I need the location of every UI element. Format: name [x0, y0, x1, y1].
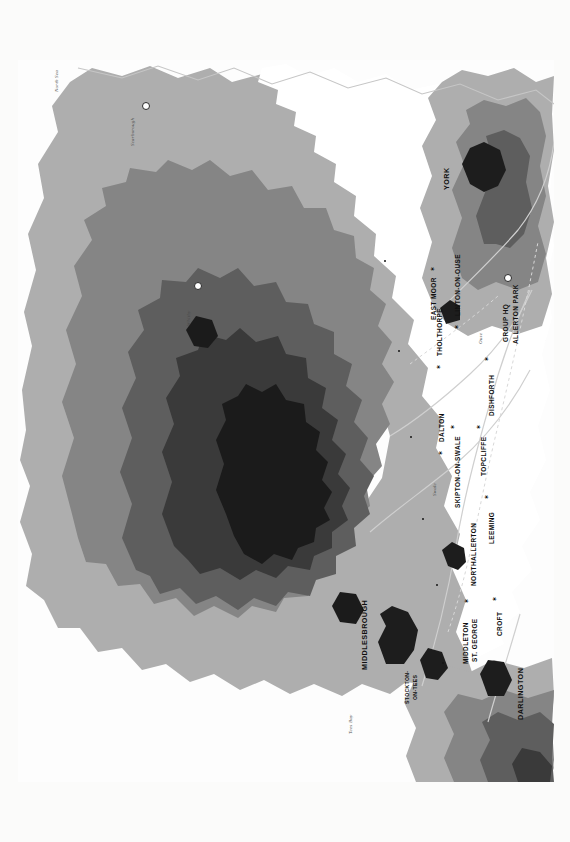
- label-whitby: Whitby: [186, 311, 191, 326]
- airfield-marker-croft[interactable]: ✶: [492, 596, 499, 602]
- label-darlington: DARLINGTON: [516, 668, 525, 720]
- airfield-marker-leeming[interactable]: ✶: [484, 494, 491, 500]
- label-stockton-line2: ON-TEES: [412, 675, 418, 700]
- label-croft: CROFT: [496, 612, 503, 636]
- map-terrain-svg: [18, 60, 554, 782]
- airfield-marker-tholthorpe[interactable]: ✶: [436, 364, 443, 370]
- label-scarborough: Scarborough: [130, 118, 135, 146]
- town-marker-scarborough[interactable]: [142, 102, 150, 110]
- label-allerton-park: ALLERTON PARK: [512, 284, 519, 344]
- label-dalton: DALTON: [438, 413, 445, 442]
- label-topcliffe: TOPCLIFFE: [480, 437, 487, 476]
- airfield-marker-dalton[interactable]: ✶: [438, 450, 445, 456]
- label-linton-on-ouse: LINTON-ON-OUSE: [454, 254, 461, 316]
- label-group-hq: GROUP HQ: [502, 304, 509, 342]
- airfield-marker-skipton-on-swale[interactable]: ✶: [450, 424, 457, 430]
- label-skipton-on-swale: SKIPTON-ON-SWALE: [454, 436, 461, 508]
- label-middleton-line2: ST. GEORGE: [471, 618, 478, 662]
- label-river-ouse: Ouse: [478, 333, 483, 344]
- rotated-map-stage: NO 6 GROUP BASES IN THE VALE OF YORK 0 5…: [0, 0, 570, 842]
- label-east-moor: EAST MOOR: [430, 277, 437, 320]
- airfield-marker-linton-on-ouse[interactable]: ✶: [454, 324, 461, 330]
- airfield-marker-middleton-st-george[interactable]: ✶: [464, 598, 471, 604]
- map-canvas: MIDDLESBROUGH STOCKTON- ON-TEES DARLINGT…: [18, 60, 554, 782]
- label-tees-bay: Tees Bay: [348, 715, 353, 734]
- label-middleton-line1: MIDDLETON: [462, 622, 469, 664]
- hq-marker-ring[interactable]: [504, 274, 512, 282]
- airfield-marker-east-moor[interactable]: ✶: [430, 266, 437, 272]
- label-tholthorpe: THOLTHORPE: [436, 308, 443, 356]
- airfield-marker-dishforth[interactable]: ✶: [484, 356, 491, 362]
- map-page: NO 6 GROUP BASES IN THE VALE OF YORK 0 5…: [0, 0, 570, 842]
- label-york: YORK: [442, 167, 451, 190]
- label-leeming: LEEMING: [488, 512, 495, 544]
- label-middlesbrough: MIDDLESBROUGH: [360, 600, 369, 670]
- label-dishforth: DISHFORTH: [488, 375, 495, 416]
- label-river-swale: Swale: [432, 483, 437, 496]
- label-north-sea: North Sea: [54, 70, 59, 92]
- label-stockton-line1: STOCKTON-: [404, 671, 410, 704]
- airfield-marker-topcliffe[interactable]: ✶: [476, 424, 483, 430]
- label-northallerton: NORTHALLERTON: [470, 523, 477, 586]
- elevation-southeast-wolds: [420, 68, 554, 336]
- town-marker-whitby[interactable]: [194, 282, 202, 290]
